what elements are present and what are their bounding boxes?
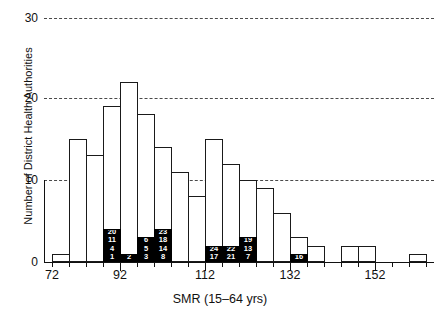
x-tickmark bbox=[409, 262, 410, 267]
x-tickmark bbox=[426, 262, 427, 267]
annotation-label: 8 bbox=[155, 253, 171, 261]
bar-80 bbox=[86, 155, 104, 262]
bar-136 bbox=[341, 246, 359, 262]
annotation-box-84: 20 11 4 1 bbox=[103, 229, 121, 262]
x-tickmark bbox=[154, 262, 155, 267]
bar-88 bbox=[120, 82, 138, 262]
annotation-label: 21 bbox=[223, 253, 239, 261]
bar-148 bbox=[409, 254, 427, 262]
y-tick-10: 10 bbox=[8, 173, 38, 187]
x-tick-72: 72 bbox=[32, 268, 72, 282]
annotation-box-116: 19 13 7 bbox=[239, 237, 257, 262]
annotation-box-96: 23 18 14 8 bbox=[154, 229, 172, 262]
x-tickmark bbox=[171, 262, 172, 267]
x-tickmark bbox=[103, 262, 104, 267]
bar-72 bbox=[52, 254, 70, 262]
x-tickmark bbox=[392, 262, 393, 267]
x-tickmark bbox=[358, 262, 359, 267]
x-tickmark bbox=[86, 262, 87, 267]
x-tick-112: 112 bbox=[185, 268, 225, 282]
x-tickmark bbox=[222, 262, 223, 267]
y-tick-20: 20 bbox=[8, 91, 38, 105]
annotation-label: 7 bbox=[240, 253, 256, 261]
bar-132 bbox=[307, 246, 325, 262]
x-tickmark bbox=[188, 262, 189, 267]
x-tickmark bbox=[324, 262, 325, 267]
x-axis-label: SMR (15–64 yrs) bbox=[0, 292, 440, 306]
bar-104 bbox=[188, 196, 206, 262]
y-tick-0: 0 bbox=[8, 255, 38, 269]
bar-140 bbox=[358, 246, 376, 262]
x-tickmark bbox=[256, 262, 257, 267]
annotation-label: 16 bbox=[291, 254, 307, 261]
annotation-box-128: 16 bbox=[290, 254, 308, 262]
histogram-figure: Number of District Health Authorities SM… bbox=[0, 0, 440, 320]
annotation-box-112: 22 21 bbox=[222, 246, 240, 262]
annotation-box-108: 24 17 bbox=[205, 246, 223, 262]
bar-124 bbox=[273, 213, 291, 262]
annotation-box-88: 2 bbox=[120, 254, 138, 262]
gridline-30 bbox=[44, 18, 434, 19]
y-tick-30: 30 bbox=[8, 11, 38, 25]
x-tickmark bbox=[69, 262, 70, 267]
gridline-20 bbox=[44, 98, 434, 99]
annotation-label: 1 bbox=[104, 253, 120, 261]
x-tickmark bbox=[341, 262, 342, 267]
bar-100 bbox=[171, 172, 189, 262]
annotation-label: 3 bbox=[138, 253, 154, 261]
y-axis-label: Number of District Health Authorities bbox=[22, 26, 34, 246]
y-axis-line bbox=[44, 180, 45, 262]
annotation-label: 2 bbox=[121, 254, 137, 261]
annotation-box-92: 6 5 3 bbox=[137, 237, 155, 262]
x-tickmark bbox=[273, 262, 274, 267]
x-tick-152: 152 bbox=[355, 268, 395, 282]
bar-108 bbox=[205, 139, 223, 262]
x-tickmark bbox=[307, 262, 308, 267]
annotation-label: 17 bbox=[206, 253, 222, 261]
x-tickmark bbox=[239, 262, 240, 267]
x-tickmark bbox=[137, 262, 138, 267]
x-tickmark bbox=[52, 262, 53, 267]
bar-120 bbox=[256, 188, 274, 262]
x-tick-92: 92 bbox=[100, 268, 140, 282]
x-tick-132: 132 bbox=[270, 268, 310, 282]
bar-76 bbox=[69, 139, 87, 262]
